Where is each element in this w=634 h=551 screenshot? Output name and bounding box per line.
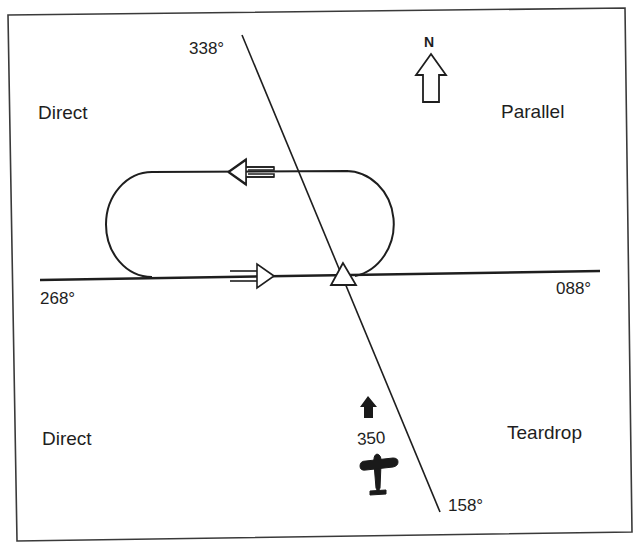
aircraft-heading-label: 350 (356, 429, 385, 448)
holding-racetrack (106, 171, 394, 277)
north-arrow-icon (416, 54, 446, 102)
holding-pattern-diagram: Direct Parallel Direct Teardrop 338° 158… (0, 0, 634, 551)
sector-label-direct-bottom: Direct (42, 429, 92, 448)
airplane-icon (360, 454, 398, 495)
radial-label-158: 158° (448, 497, 483, 514)
north-label: N (424, 35, 434, 49)
radial-label-268: 268° (40, 290, 75, 307)
sector-label-parallel: Parallel (501, 102, 564, 121)
radial-label-338: 338° (189, 40, 224, 57)
course-line-268-088 (40, 271, 600, 280)
radial-label-088: 088° (556, 280, 591, 297)
heading-arrow-icon (360, 396, 377, 418)
diagram-canvas (0, 0, 634, 551)
sector-label-teardrop: Teardrop (507, 423, 582, 442)
sector-label-direct-top: Direct (38, 103, 88, 122)
